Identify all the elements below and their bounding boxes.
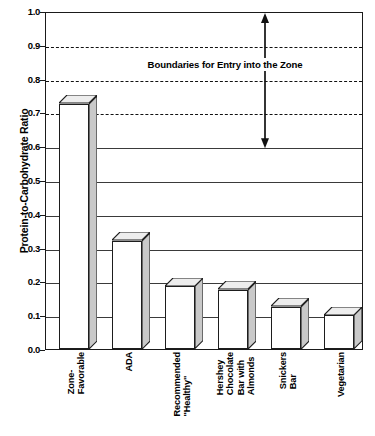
y-tick-label: 0.6: [14, 142, 40, 152]
y-tick-label: 0.3: [14, 244, 40, 254]
x-category-label: Vegetarian: [336, 352, 346, 397]
bar-side-face: [195, 278, 203, 349]
y-tick-mark: [40, 350, 45, 351]
y-tick-label: 0.1: [14, 311, 40, 321]
protein-carbohydrate-ratio-chart: Protein-to-Carbohydrate Ratio 1.00.90.80…: [0, 0, 375, 436]
bar: [324, 315, 354, 349]
y-tick-label: 0.8: [14, 75, 40, 85]
bar-front-face: [165, 286, 195, 349]
y-tick-label: 0.0: [14, 345, 40, 355]
y-tick-label: 0.7: [14, 108, 40, 118]
y-tick-label: 0.2: [14, 277, 40, 287]
gridline-dashed: [46, 47, 362, 48]
bar-side-face: [142, 233, 150, 349]
bar-front-face: [218, 290, 248, 349]
x-category-label: Recommended "Healthy": [172, 352, 193, 416]
bar-front-face: [59, 104, 89, 349]
bar: [165, 286, 195, 349]
zone-annotation-label: Boundaries for Entry into the Zone: [104, 58, 346, 71]
x-axis-category-labels: Zone- FavorableADARecommended "Healthy"H…: [45, 352, 363, 436]
x-category-label: ADA: [124, 352, 134, 372]
x-category-label: Zone- Favorable: [66, 352, 87, 394]
gridline-dashed: [46, 81, 362, 82]
x-category-label: Hershey Chocolate Bar with Almonds: [215, 352, 257, 395]
y-axis-tick-labels: 1.00.90.80.70.60.50.40.30.20.10.0: [14, 0, 40, 436]
y-tick-label: 1.0: [14, 7, 40, 17]
y-tick-label: 0.4: [14, 210, 40, 220]
bar-front-face: [324, 315, 354, 349]
bar-side-face: [89, 96, 97, 349]
plot-area: Boundaries for Entry into the Zone: [45, 12, 363, 350]
bar: [112, 241, 142, 349]
bar-front-face: [112, 241, 142, 349]
bar: [59, 104, 89, 349]
bar: [218, 290, 248, 349]
y-tick-label: 0.9: [14, 41, 40, 51]
y-tick-label: 0.5: [14, 176, 40, 186]
x-category-label: Snickers Bar: [278, 352, 299, 389]
